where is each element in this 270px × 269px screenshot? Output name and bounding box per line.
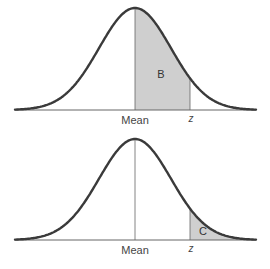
region-label: B xyxy=(157,68,164,80)
normal-curve-top: MeanzB xyxy=(15,8,256,126)
region-label: C xyxy=(199,225,207,237)
normal-curve-line xyxy=(15,139,256,240)
normal-curve-diagrams: MeanzBMeanzC xyxy=(0,0,270,269)
normal-curve-bottom: MeanzC xyxy=(15,139,256,256)
z-label: z xyxy=(188,243,194,254)
mean-label: Mean xyxy=(121,114,149,126)
z-label: z xyxy=(188,113,194,124)
shaded-region-B xyxy=(135,8,190,110)
mean-label: Mean xyxy=(121,244,149,256)
